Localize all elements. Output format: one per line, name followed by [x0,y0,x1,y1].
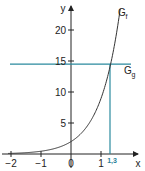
y-axis-label: y [61,3,66,14]
y-tick-label: 20 [55,25,67,36]
axis-labels: −2−1015101520xy1,3GfGg [5,3,140,169]
g-g-label-sub: g [132,71,136,79]
g-f-label-sub: f [126,13,128,20]
plot-series [8,9,131,154]
x-tick-label: −1 [35,158,47,169]
x-axis-label: x [136,158,141,169]
y-tick-label: 10 [55,87,67,98]
exponential-chart: −2−1015101520xy1,3GfGg [0,0,145,171]
x-tick-label: −2 [5,158,17,169]
y-tick-label: 5 [60,118,66,129]
x-tick-label: 1 [98,158,104,169]
x-tick-label: 0 [68,158,74,169]
y-tick-label: 15 [55,56,67,67]
intersection-x-label: 1,3 [107,157,117,165]
